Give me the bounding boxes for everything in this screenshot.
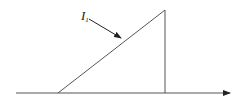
triangular-waveform-diagram: I1: [0, 0, 246, 101]
label-pointer-arrow: [89, 19, 121, 38]
ramp-line: [58, 10, 165, 93]
current-label: I1: [80, 8, 89, 24]
